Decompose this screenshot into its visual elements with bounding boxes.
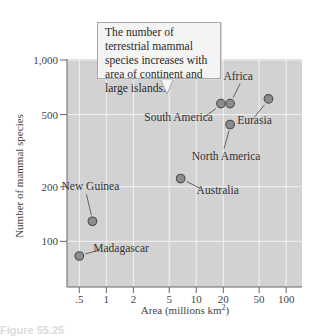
y-tick-label: 100 <box>42 235 59 247</box>
x-tick-label: 100 <box>278 293 295 305</box>
y-tick-label: 1,000 <box>33 54 58 66</box>
point-label: Australia <box>197 184 239 196</box>
point-label: Eurasia <box>237 114 271 126</box>
y-axis-title: Number of mammal species <box>13 114 25 238</box>
x-axis-title: Area (millions km2) <box>141 303 230 317</box>
point-label: Madagascar <box>93 242 149 255</box>
data-point <box>217 99 226 108</box>
data-point <box>176 174 185 183</box>
y-axis-ticks: 1002005001,000 <box>33 54 67 247</box>
x-tick-label: 1 <box>104 293 110 305</box>
y-tick-label: 500 <box>42 109 59 121</box>
data-point <box>88 217 97 226</box>
x-tick-label: .5 <box>75 293 84 305</box>
data-point <box>264 95 273 104</box>
data-point <box>226 120 235 129</box>
point-label: New Guinea <box>62 180 120 192</box>
point-label: North America <box>192 150 261 162</box>
annotation-callout: The number of terrestrial mammal species… <box>97 22 221 79</box>
x-tick-label: 50 <box>254 293 266 305</box>
data-point <box>226 99 235 108</box>
x-tick-label: 2 <box>131 293 137 305</box>
x-axis-ticks: .5125102050100 <box>75 287 295 305</box>
y-tick-label: 200 <box>42 181 59 193</box>
point-label: Africa <box>223 70 252 82</box>
figure-caption: Figure 55.25 <box>0 324 64 336</box>
data-point <box>75 252 84 261</box>
point-label: South America <box>144 111 213 123</box>
